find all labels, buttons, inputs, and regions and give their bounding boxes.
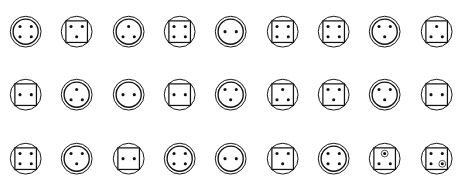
glyph-cell[interactable] [154, 0, 205, 63]
dot-icon [75, 162, 78, 165]
outer-circle-icon [370, 80, 401, 111]
glyph-r1c3 [103, 0, 154, 63]
dot-icon [332, 99, 335, 102]
glyph-cell[interactable] [51, 127, 102, 190]
dot-icon [378, 25, 381, 28]
dot-icon [235, 157, 238, 160]
glyph-cell[interactable] [257, 63, 308, 126]
dot-icon [172, 93, 175, 96]
dot-icon [224, 30, 227, 33]
dot-icon [338, 25, 341, 28]
dot-icon [229, 99, 232, 102]
glyph-cell[interactable] [308, 0, 359, 63]
glyph-r1c8 [359, 0, 410, 63]
dot-icon [378, 88, 381, 91]
dot-icon [70, 25, 73, 28]
glyph-cell[interactable] [51, 63, 102, 126]
glyph-cell[interactable] [411, 0, 462, 63]
inner-circle-icon [13, 19, 38, 44]
glyph-r3c1 [0, 127, 51, 190]
dot-icon [30, 35, 33, 38]
dot-icon [132, 35, 135, 38]
dot-icon [378, 162, 381, 165]
dot-icon [338, 35, 341, 38]
dot-icon [121, 157, 124, 160]
dot-icon [338, 162, 341, 165]
glyph-r3c5 [205, 127, 256, 190]
glyph-r3c2 [51, 127, 102, 190]
dot-icon [338, 88, 341, 91]
glyph-cell[interactable] [154, 127, 205, 190]
glyph-cell[interactable] [257, 0, 308, 63]
dot-icon [75, 35, 78, 38]
glyph-r2c9 [411, 63, 462, 126]
glyph-cell[interactable] [411, 127, 462, 190]
dot-icon [383, 35, 386, 38]
glyph-r2c5 [205, 63, 256, 126]
inner-circle-icon [218, 146, 243, 171]
glyph-cell[interactable] [103, 63, 154, 126]
glyph-cell[interactable] [51, 0, 102, 63]
dot-icon [18, 162, 21, 165]
glyph-r2c2 [51, 63, 102, 126]
inner-circle-icon [116, 82, 141, 107]
dot-icon [127, 25, 130, 28]
glyph-r1c6 [257, 0, 308, 63]
glyph-r1c5 [205, 0, 256, 63]
glyph-r1c1 [0, 0, 51, 63]
dot-icon [70, 99, 73, 102]
outer-circle-icon [10, 16, 41, 47]
dot-icon [18, 35, 21, 38]
inner-circle-icon [218, 82, 243, 107]
dot-icon [275, 99, 278, 102]
dot-icon [81, 25, 84, 28]
glyph-cell[interactable] [411, 63, 462, 126]
glyph-cell[interactable] [359, 0, 410, 63]
dot-icon [121, 35, 124, 38]
dot-icon [286, 25, 289, 28]
inner-square-icon [118, 148, 140, 170]
glyph-grid [0, 0, 462, 190]
dot-icon [286, 152, 289, 155]
inner-square-icon [374, 148, 396, 170]
dot-icon [184, 93, 187, 96]
glyph-r3c7 [308, 127, 359, 190]
dot-icon [429, 152, 432, 155]
glyph-cell[interactable] [103, 0, 154, 63]
dot-icon [30, 152, 33, 155]
glyph-r3c6 [257, 127, 308, 190]
inner-square-icon [15, 148, 37, 170]
dot-icon [235, 30, 238, 33]
inner-circle-icon [218, 19, 243, 44]
outer-circle-icon [216, 143, 247, 174]
dot-icon [326, 152, 329, 155]
glyph-cell[interactable] [308, 127, 359, 190]
glyph-cell[interactable] [205, 0, 256, 63]
dot-icon [184, 25, 187, 28]
dot-icon [383, 99, 386, 102]
dot-icon [235, 88, 238, 91]
outer-circle-icon [318, 143, 349, 174]
dot-icon [172, 152, 175, 155]
glyph-cell[interactable] [359, 127, 410, 190]
outer-circle-icon [370, 16, 401, 47]
glyph-cell[interactable] [205, 63, 256, 126]
dot-icon [275, 152, 278, 155]
dot-icon [224, 88, 227, 91]
glyph-cell[interactable] [205, 127, 256, 190]
dot-icon [326, 162, 329, 165]
glyph-cell[interactable] [0, 127, 51, 190]
glyph-cell[interactable] [154, 63, 205, 126]
glyph-cell[interactable] [257, 127, 308, 190]
inner-square-icon [169, 84, 191, 106]
glyph-cell[interactable] [359, 63, 410, 126]
inner-square-icon [272, 84, 294, 106]
dot-icon [440, 35, 443, 38]
glyph-cell[interactable] [0, 0, 51, 63]
inner-square-icon [169, 21, 191, 43]
outer-circle-icon [62, 143, 93, 174]
glyph-cell[interactable] [308, 63, 359, 126]
glyph-cell[interactable] [0, 63, 51, 126]
dot-icon [30, 93, 33, 96]
glyph-cell[interactable] [103, 127, 154, 190]
